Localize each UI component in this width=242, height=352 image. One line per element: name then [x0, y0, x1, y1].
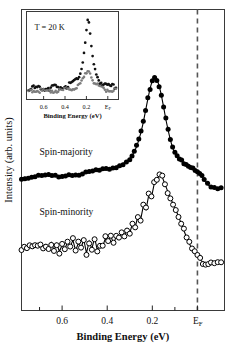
data-point-spin-minority: [198, 255, 203, 260]
inset-data-point-spin-majority: [94, 68, 97, 71]
data-point-spin-minority: [168, 196, 173, 201]
figure-container: 0.60.40.2EFBinding Energy (eV)Intensity …: [0, 0, 242, 352]
data-point-spin-minority: [100, 243, 105, 248]
data-point-spin-majority: [154, 78, 159, 83]
inset-data-point-spin-minority: [80, 79, 83, 82]
data-point-spin-minority: [51, 248, 56, 253]
data-point-spin-majority: [134, 143, 139, 148]
inset-data-point-spin-minority: [83, 76, 86, 79]
data-point-spin-minority: [162, 182, 167, 187]
inset-data-point-spin-minority: [57, 90, 60, 93]
data-point-spin-minority: [87, 241, 92, 246]
data-point-spin-majority: [163, 115, 168, 120]
data-point-spin-majority: [132, 149, 137, 154]
data-point-spin-majority: [161, 105, 166, 110]
data-point-spin-majority: [205, 181, 210, 186]
inset-temperature-annotation: T = 20 K: [35, 23, 65, 32]
data-point-spin-minority: [84, 252, 89, 257]
data-point-spin-majority: [166, 127, 171, 132]
data-point-spin-minority: [106, 239, 111, 244]
inset-x-tick-label-0: 0.6: [40, 103, 48, 110]
data-point-spin-majority: [143, 108, 148, 113]
data-point-spin-minority: [179, 221, 184, 226]
inset-data-point-spin-majority: [83, 52, 86, 55]
inset-data-point-spin-majority: [86, 19, 89, 22]
inset-data-point-spin-majority: [47, 87, 50, 90]
data-point-spin-majority: [139, 129, 144, 134]
inset-data-point-spin-majority: [79, 72, 82, 75]
inset-data-point-spin-minority: [62, 89, 65, 92]
x-tick-label-0: 0.6: [56, 316, 68, 326]
inset-data-point-spin-majority: [89, 32, 92, 35]
data-point-spin-minority: [57, 251, 62, 256]
data-point-spin-minority: [116, 235, 121, 240]
data-point-spin-minority: [70, 236, 75, 241]
data-point-spin-minority: [122, 234, 127, 239]
data-point-spin-majority: [159, 93, 164, 98]
inset-data-point-spin-minority: [79, 82, 82, 85]
data-point-spin-minority: [138, 218, 143, 223]
inset-data-point-spin-majority: [81, 61, 84, 64]
inset-data-point-spin-minority: [75, 87, 78, 90]
inset-data-point-spin-majority: [80, 68, 83, 71]
data-point-spin-minority: [65, 239, 70, 244]
data-point-spin-minority: [181, 226, 186, 231]
data-point-spin-minority: [49, 242, 54, 247]
inset-data-point-spin-majority: [97, 79, 100, 82]
data-point-spin-minority: [76, 239, 81, 244]
inset-x-axis-title: Binding Energy (eV): [43, 112, 101, 120]
inset-data-point-spin-minority: [91, 79, 94, 82]
data-point-spin-majority: [130, 153, 135, 158]
data-point-spin-minority: [176, 214, 181, 219]
inset-x-tick-label-1: 0.4: [61, 103, 69, 110]
annotation-spin-minority: Spin-minority: [40, 206, 94, 217]
data-point-spin-minority: [144, 205, 149, 210]
x-axis-title: Binding Energy (eV): [77, 331, 170, 343]
inset-data-point-spin-majority: [32, 84, 35, 87]
data-point-spin-minority: [154, 177, 159, 182]
data-point-spin-majority: [157, 84, 162, 89]
inset-data-point-spin-minority: [90, 76, 93, 79]
inset-data-point-spin-majority: [91, 55, 94, 58]
data-point-spin-minority: [103, 234, 108, 239]
inset-data-point-spin-majority: [84, 41, 87, 44]
data-point-spin-minority: [73, 248, 78, 253]
annotation-spin-majority: Spin-majority: [40, 146, 93, 157]
inset-data-point-spin-minority: [115, 87, 118, 90]
y-axis-title: Intensity (arb. units): [3, 117, 15, 203]
data-point-spin-minority: [173, 208, 178, 213]
data-point-spin-minority: [81, 238, 86, 243]
inset-data-point-spin-minority: [89, 72, 92, 75]
inset-data-point-spin-majority: [95, 73, 98, 76]
x-tick-label-2: 0.2: [146, 316, 158, 326]
data-point-spin-minority: [92, 237, 97, 242]
data-point-spin-majority: [168, 137, 173, 142]
inset-data-point-spin-majority: [88, 21, 91, 24]
inset-data-point-spin-majority: [78, 76, 81, 79]
data-point-spin-minority: [89, 247, 94, 252]
data-point-spin-majority: [136, 136, 141, 141]
data-point-spin-majority: [219, 185, 224, 190]
data-point-spin-minority: [60, 241, 65, 246]
inset-x-tick-label-fermi: EF: [105, 103, 112, 112]
x-tick-label-fermi: EF: [193, 316, 203, 327]
x-tick-label-1: 0.4: [101, 316, 113, 326]
data-point-spin-minority: [187, 239, 192, 244]
data-point-spin-minority: [62, 247, 67, 252]
data-point-spin-majority: [141, 119, 146, 124]
inset-data-point-spin-majority: [100, 81, 103, 84]
data-point-spin-majority: [170, 144, 175, 149]
inset-data-point-spin-majority: [85, 29, 88, 32]
data-point-spin-minority: [127, 231, 132, 236]
data-point-spin-minority: [160, 173, 165, 178]
data-point-spin-majority: [148, 87, 153, 92]
data-point-spin-minority: [108, 233, 113, 238]
data-point-spin-minority: [149, 194, 154, 199]
data-point-spin-minority: [133, 225, 138, 230]
inset-data-point-spin-majority: [96, 76, 99, 79]
data-point-spin-minority: [219, 260, 224, 265]
data-point-spin-minority: [79, 245, 84, 250]
data-point-spin-minority: [54, 243, 59, 248]
inset-data-point-spin-majority: [112, 83, 115, 86]
data-point-spin-minority: [95, 249, 100, 254]
